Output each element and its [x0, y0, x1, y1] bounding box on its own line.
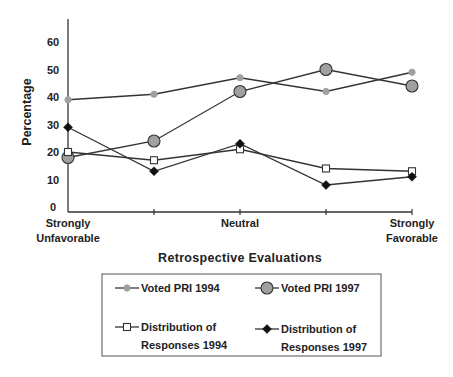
data-point	[323, 88, 329, 94]
y-tick-label: 60	[47, 36, 59, 48]
legend-marker	[124, 285, 130, 291]
series-distribution-of-responses-1997	[68, 127, 412, 185]
data-point	[237, 75, 243, 81]
legend-label: Voted PRI 1994	[141, 282, 221, 294]
data-point	[150, 167, 159, 176]
markers-distribution-of-responses-1994	[65, 146, 416, 175]
legend-label: Distribution of	[281, 323, 356, 335]
legend-item: Voted PRI 1997	[255, 282, 360, 294]
data-point	[151, 91, 157, 97]
legend-label: Responses 1994	[141, 339, 228, 351]
data-point	[409, 69, 415, 75]
y-tick-label: 30	[47, 119, 59, 131]
x-tick-label: Strongly	[390, 217, 435, 229]
y-axis-label: Percentage	[20, 78, 34, 145]
axes	[68, 19, 412, 212]
y-ticks: 0102030405060	[47, 36, 59, 213]
x-tick-label: Strongly	[46, 217, 91, 229]
x-ticks: StronglyUnfavorableNeutralStronglyFavora…	[36, 209, 438, 244]
data-point	[151, 157, 158, 164]
series-group	[62, 64, 418, 190]
y-tick-label: 40	[47, 91, 59, 103]
legend-label: Voted PRI 1997	[281, 282, 360, 294]
data-point	[148, 135, 160, 147]
x-tick-label: Favorable	[386, 232, 438, 244]
x-tick-label: Unfavorable	[36, 232, 100, 244]
legend: Voted PRI 1994Voted PRI 1997Distribution…	[102, 274, 381, 356]
data-point	[65, 149, 72, 156]
y-tick-label: 20	[47, 146, 59, 158]
legend-marker	[261, 282, 273, 294]
data-point	[65, 97, 71, 103]
y-tick-label: 50	[47, 64, 59, 76]
data-point	[322, 181, 331, 190]
data-point	[320, 64, 332, 76]
data-point	[234, 86, 246, 98]
line-chart: 0102030405060 StronglyUnfavorableNeutral…	[0, 0, 453, 377]
y-tick-label: 10	[47, 174, 59, 186]
data-point	[406, 80, 418, 92]
data-point	[323, 165, 330, 172]
x-axis-label: Retrospective Evaluations	[158, 251, 322, 265]
legend-marker	[124, 324, 131, 331]
y-tick-label: 0	[50, 201, 56, 213]
legend-label: Responses 1997	[281, 341, 367, 353]
data-point	[64, 123, 73, 132]
series-line	[68, 127, 412, 185]
legend-label: Distribution of	[141, 321, 216, 333]
x-tick-label: Neutral	[221, 217, 259, 229]
